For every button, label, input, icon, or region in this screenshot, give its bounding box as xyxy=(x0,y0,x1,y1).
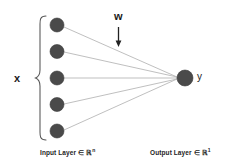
input-vector-label: x xyxy=(14,73,20,84)
output-node xyxy=(177,70,193,86)
input-layer-dimension: n xyxy=(92,147,95,153)
input-node-2 xyxy=(50,45,64,59)
input-layer-caption: Input Layer ∈ ℝn xyxy=(40,150,95,157)
input-layer-caption-text: Input Layer ∈ ℝ xyxy=(40,149,92,156)
input-node-4 xyxy=(50,98,64,112)
output-label: y xyxy=(197,72,202,82)
output-layer-caption: Output Layer ∈ ℝ1 xyxy=(150,150,211,157)
network-canvas xyxy=(0,0,232,168)
edge-x5-y xyxy=(64,79,177,130)
edge-x1-y xyxy=(64,27,177,77)
weights-arrow xyxy=(116,27,122,47)
input-node-group xyxy=(50,18,64,138)
input-node-1 xyxy=(50,18,64,32)
input-node-5 xyxy=(50,124,64,138)
weights-label: w xyxy=(114,11,123,22)
neural-network-diagram: x w y Input Layer ∈ ℝn Output Layer ∈ ℝ1 xyxy=(0,0,232,168)
input-brace xyxy=(36,16,47,140)
output-layer-dimension: 1 xyxy=(208,147,211,153)
edge-x4-y xyxy=(64,79,177,104)
input-node-3 xyxy=(50,71,64,85)
output-layer-caption-text: Output Layer ∈ ℝ xyxy=(150,149,208,156)
edge-x2-y xyxy=(64,52,177,77)
